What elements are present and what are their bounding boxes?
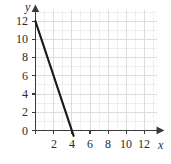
y-tick-label-12: 12	[4, 15, 28, 27]
x-tick-label-8: 8	[98, 138, 118, 150]
y-tick-label-6: 6	[4, 70, 28, 82]
y-tick-label-2: 2	[4, 106, 28, 118]
x-axis-arrow-icon	[157, 127, 165, 135]
y-axis-arrow-icon	[32, 5, 40, 13]
coordinate-graph: y x 12 10 8 6 4 2 0 2 4 6 8 10 12	[0, 0, 171, 164]
plotted-line-series	[35, 21, 73, 136]
y-tick-label-8: 8	[4, 51, 28, 63]
y-tick-label-4: 4	[4, 88, 28, 100]
x-axis-label: x	[158, 139, 163, 151]
x-tick-label-10: 10	[116, 138, 136, 150]
y-axis-label: y	[25, 1, 30, 13]
x-tick-label-12: 12	[134, 138, 154, 150]
origin-label: 0	[4, 125, 28, 137]
x-tick-label-6: 6	[80, 138, 100, 150]
x-tick-label-4: 4	[62, 138, 82, 150]
y-tick-label-10: 10	[4, 33, 28, 45]
x-tick-label-2: 2	[44, 138, 64, 150]
